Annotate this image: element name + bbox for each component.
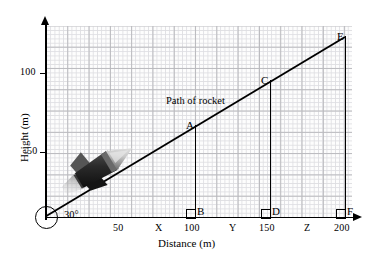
angle-label-30deg: 30° (64, 209, 79, 220)
point-label-b: B (197, 205, 204, 217)
point-label-f: F (347, 205, 353, 217)
path-of-rocket-label: Path of rocket (166, 95, 225, 106)
point-label-a: A (186, 119, 194, 131)
point-label-e: E (337, 30, 344, 42)
point-label-d: D (272, 205, 280, 217)
rocket-path-figure: 100 50 Height (m) 50 100 150 200 X Y Z D… (0, 0, 369, 261)
point-label-c: C (261, 74, 268, 86)
rocket-path-line (0, 0, 369, 261)
rocket-icon (55, 134, 141, 208)
